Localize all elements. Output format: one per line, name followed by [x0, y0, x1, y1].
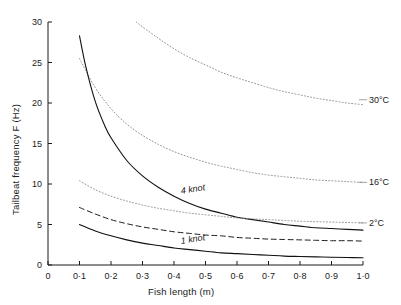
y-axis-ticks	[48, 22, 52, 265]
x-tick-label: 0·1	[67, 271, 93, 281]
y-tick-label: 10	[22, 179, 42, 189]
y-tick-label: 30	[22, 17, 42, 27]
y-tick-label: 25	[22, 58, 42, 68]
x-tick-label: 0·4	[161, 271, 187, 281]
y-tick-label: 5	[22, 220, 42, 230]
x-tick-label: 1·0	[350, 271, 376, 281]
series-end-label: 16°C	[369, 177, 389, 187]
curve-2-c	[80, 181, 364, 223]
x-tick-label: 0	[35, 271, 61, 281]
series-end-label: 2°C	[369, 218, 384, 228]
x-axis-title: Fish length (m)	[148, 286, 214, 297]
x-tick-label: 0·5	[193, 271, 219, 281]
curve-16-c	[80, 58, 364, 182]
x-axis-ticks	[48, 261, 363, 265]
curve-4-knot	[80, 36, 364, 230]
x-tick-label: 0·8	[287, 271, 313, 281]
y-tick-label: 20	[22, 98, 42, 108]
y-axis-title: Tailbeat frequency F (Hz)	[10, 104, 21, 215]
x-tick-label: 0·3	[130, 271, 156, 281]
curve-30-c	[136, 22, 363, 105]
chart-plot-area	[0, 0, 401, 305]
x-tick-label: 0·9	[319, 271, 345, 281]
x-tick-label: 0·7	[256, 271, 282, 281]
series-end-label: 30°C	[369, 95, 389, 105]
x-tick-label: 0·6	[224, 271, 250, 281]
data-curves	[80, 22, 368, 258]
y-tick-label: 0	[22, 260, 42, 270]
chart-figure: Tailbeat frequency F (Hz) Fish length (m…	[0, 0, 401, 305]
curve-1-knot	[80, 225, 364, 258]
x-tick-label: 0·2	[98, 271, 124, 281]
curve-2-knot-dashed	[80, 207, 364, 241]
y-tick-label: 15	[22, 139, 42, 149]
